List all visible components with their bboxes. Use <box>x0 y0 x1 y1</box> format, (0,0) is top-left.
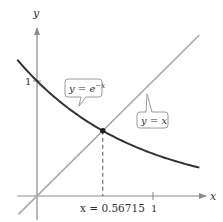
callout-text: y = x <box>140 115 167 126</box>
intersection-label: x = 0.56715 <box>80 202 145 214</box>
intersection-point <box>100 128 106 134</box>
x-axis-label: x <box>210 190 217 203</box>
curve-exp-neg-x <box>17 60 199 168</box>
callout-exp-neg-x: y = e−x <box>65 79 105 106</box>
line-y-equals-x <box>18 35 199 214</box>
chart: xy11x = 0.56715y = e−xy = x <box>0 0 223 222</box>
y-axis-label: y <box>32 7 40 20</box>
callout-y-equals-x: y = x <box>137 94 168 128</box>
x-tick-label: 1 <box>151 203 157 214</box>
y-tick-label: 1 <box>25 76 31 87</box>
